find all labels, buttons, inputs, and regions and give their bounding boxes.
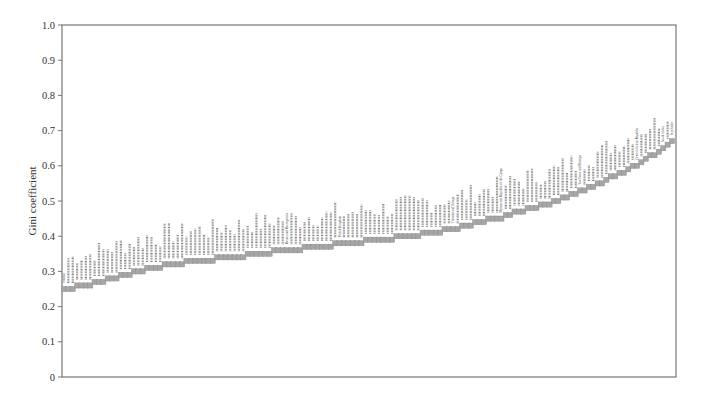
- y-tick-label: 0.8: [42, 90, 55, 101]
- y-tick-label: 0.2: [42, 301, 55, 312]
- country-label: Trinidad and Tobago: [451, 196, 455, 223]
- y-tick-label: 0.3: [42, 266, 55, 277]
- country-label: South Africa: [661, 125, 665, 142]
- y-tick-label: 0: [50, 372, 55, 383]
- gini-chart: 00.10.20.30.40.50.60.70.80.91.0 Gini coe…: [0, 0, 703, 399]
- y-axis: 00.10.20.30.40.50.60.70.80.91.0: [42, 20, 62, 383]
- country-label: Democratic Republic of the Congo: [499, 168, 503, 213]
- country-label: Seychelles: [670, 121, 674, 135]
- country-labels: SwedenBosnia and HerzegovinaUnited Kingd…: [62, 118, 674, 283]
- country-label: Bosnia and Herzegovina: [285, 212, 289, 244]
- country-label: Sao Tome and Principe: [578, 154, 582, 184]
- plot-frame: [62, 25, 676, 377]
- y-tick-label: 1.0: [42, 20, 55, 31]
- y-axis-label: Gini coefficient: [26, 166, 38, 235]
- country-label: Sweden: [62, 273, 66, 283]
- y-tick-label: 0.1: [42, 336, 55, 347]
- y-tick-label: 0.7: [42, 125, 55, 136]
- y-tick-label: 0.5: [42, 196, 55, 207]
- y-tick-label: 0.4: [42, 231, 56, 242]
- country-label: United Kingdom: [338, 215, 342, 237]
- country-label: Central African Republic: [635, 127, 639, 160]
- data-point: [669, 139, 674, 144]
- y-tick-label: 0.9: [42, 55, 55, 66]
- data-points: [61, 139, 674, 292]
- y-tick-label: 0.6: [42, 160, 55, 171]
